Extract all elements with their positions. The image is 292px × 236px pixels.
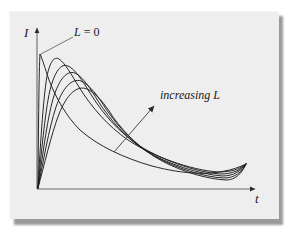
x-axis-label: t [255,192,259,205]
l-zero-rest: = 0 [81,25,100,39]
axes-group [37,28,255,189]
increasing-l-annotation: increasing L [160,89,220,101]
figure-container: I t L = 0 increasing L [0,0,292,236]
l-zero-leader-line [41,37,73,54]
increasing-l-symbol: L [213,88,220,102]
y-axis-label: I [24,26,28,39]
increasing-text: increasing [160,88,213,102]
plot-svg [0,0,292,236]
curve-family [38,54,246,188]
l-zero-symbol: L [74,25,81,39]
l-zero-annotation: L = 0 [74,26,99,38]
curve-L0 [38,54,246,188]
curve-2 [38,58,246,188]
